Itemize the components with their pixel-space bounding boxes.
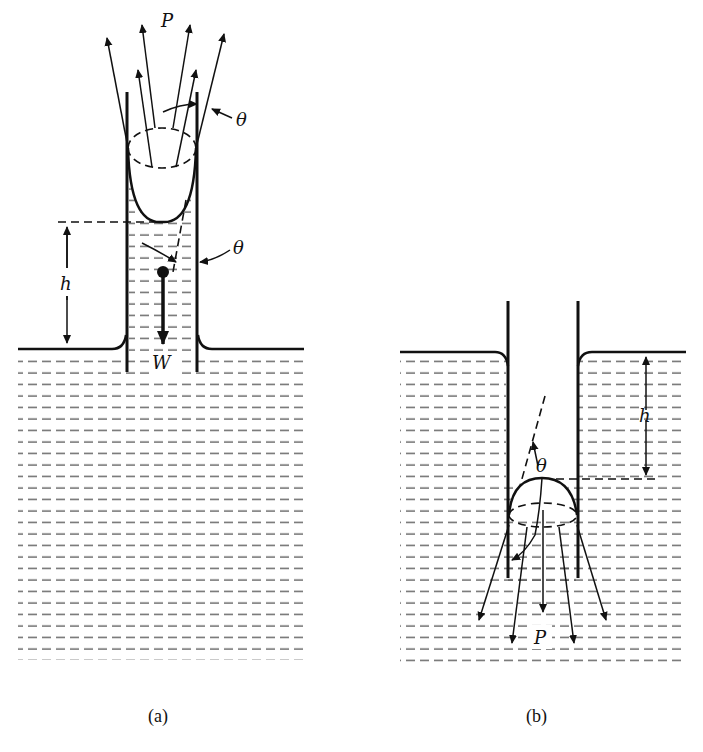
caption-b: (b) [526, 706, 547, 727]
contact-angle-arc-top-a [163, 104, 197, 112]
label-height-h-b: h [639, 405, 651, 426]
surface-tension-arrows-a [107, 25, 224, 167]
liquid-reservoir-b-right [578, 358, 686, 668]
panel-b: h θ P (b) [400, 301, 686, 727]
capillary-diagram: P θ θ h W (a) [0, 0, 703, 752]
caption-a: (a) [148, 706, 168, 727]
label-theta-b: θ [536, 455, 547, 476]
panel-a: P θ θ h W (a) [18, 10, 304, 727]
label-height-h-a: h [60, 273, 72, 294]
contact-line-ellipse-a [128, 128, 196, 148]
theta-pointer-top-a [212, 109, 232, 118]
label-force-p-b: P [533, 627, 547, 648]
label-theta-top-a: θ [236, 109, 247, 130]
label-weight-w-a: W [152, 352, 172, 373]
theta-pointer-side-a [200, 250, 230, 262]
label-force-p-a: P [160, 10, 174, 31]
liquid-reservoir-b-left [400, 358, 506, 668]
free-surface-left-a [18, 335, 126, 349]
free-surface-right-a [198, 335, 304, 349]
label-theta-side-a: θ [233, 237, 244, 258]
liquid-reservoir-a [18, 352, 304, 660]
